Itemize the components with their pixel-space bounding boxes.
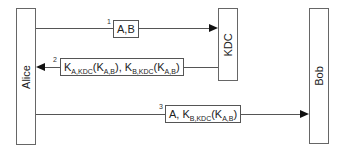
message-1-number: 1 [107,18,111,25]
message-2-key-2-sub: B,KDC [132,68,153,75]
message-1-text: A,B [117,23,135,35]
message-2-session-1: A,B [104,68,115,75]
message-2-close-1: ), K [115,61,132,73]
message-2-open-1: (K [93,61,104,73]
message-3-open: (K [211,108,222,120]
message-1-label: A,B [113,20,139,38]
message-3-close: ) [234,108,238,120]
message-3-label: A, KB,KDC(KA,B) [165,105,241,123]
actor-kdc: KDC [218,8,238,81]
actor-bob-label: Bob [313,66,325,86]
arrow-right-icon [300,110,309,118]
actor-bob: Bob [309,8,329,144]
message-2-label: KA,KDC(KA,B), KB,KDC(KA,B) [60,58,184,76]
message-3-number: 3 [159,103,163,110]
message-2-open-2: (K [154,61,165,73]
message-3-session: A,B [222,115,233,122]
arrow-left-icon [36,63,45,71]
actor-kdc-label: KDC [222,33,234,56]
message-2-key-1-sub: A,KDC [71,68,92,75]
message-2-number: 2 [53,56,57,63]
actor-alice-label: Alice [20,65,32,89]
actor-alice: Alice [16,8,36,145]
arrow-right-icon [209,24,218,32]
message-3-prefix: A, K [169,108,190,120]
message-3-key-sub: B,KDC [190,115,211,122]
message-2-session-2: A,B [165,68,176,75]
message-2-close-2: ) [176,61,180,73]
